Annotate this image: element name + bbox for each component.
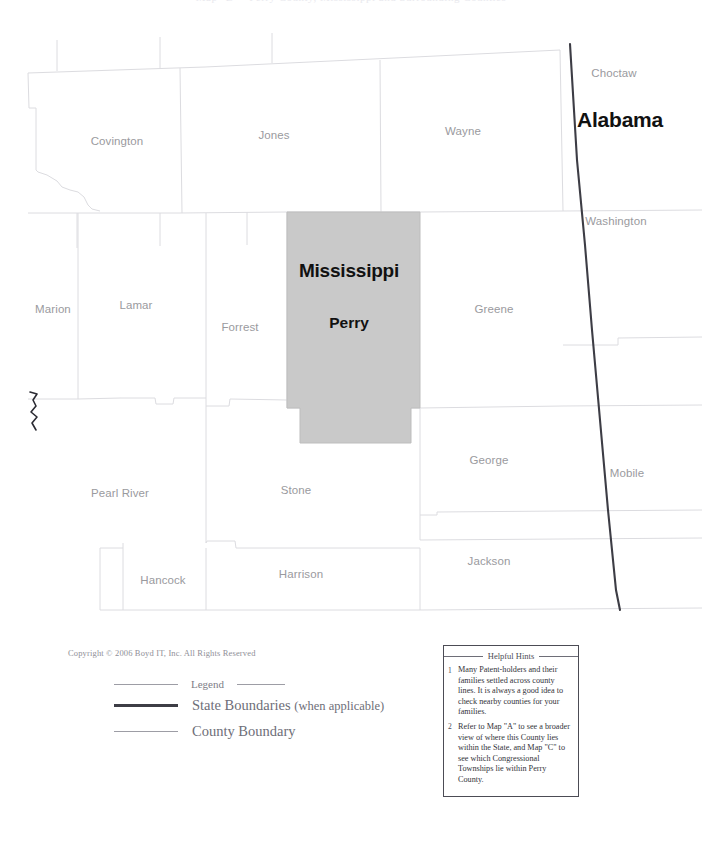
legend-label-state-suffix: (when applicable) [294,699,384,713]
county-label-harrison: Harrison [279,568,323,580]
legend-rule-left [114,684,178,685]
county-label-forrest: Forrest [221,321,258,333]
county-label-washington: Washington [585,215,646,227]
legend-header: Legend [114,676,410,692]
helpful-hints-box: Helpful Hints 1 Many Patent-holders and … [443,645,579,797]
hints-header: Helpful Hints [444,646,578,661]
hint-text-2: Refer to Map "A" to see a broader view o… [458,722,572,786]
county-label-jones: Jones [258,129,289,141]
county-label-covington: Covington [91,135,144,147]
state-boundary-swatch-icon [110,704,182,707]
hint-item-1: 1 Many Patent-holders and their families… [444,661,578,718]
copyright-notice: Copyright © 2006 Boyd IT, Inc. All Right… [68,648,256,658]
hint-number-2: 2 [448,722,458,786]
legend-label-state-main: State Boundaries [192,697,294,713]
legend-rule-right [237,684,285,685]
legend-label-state-boundaries: State Boundaries (when applicable) [182,697,384,714]
county-label-jackson: Jackson [468,555,511,567]
legend-title: Legend [178,678,237,690]
legend-row-county-boundary: County Boundary [110,718,410,744]
county-label-mobile: Mobile [610,467,644,479]
county-label-hancock: Hancock [140,574,185,586]
hint-number-1: 1 [448,665,458,718]
county-label-george: George [470,454,509,466]
legend-row-state-boundaries: State Boundaries (when applicable) [110,692,410,718]
map-vector-layer [0,0,702,625]
county-label-lamar: Lamar [119,299,152,311]
selected-state-label: Mississippi [299,260,399,282]
county-label-wayne: Wayne [445,125,481,137]
legend-label-county-boundary: County Boundary [182,723,296,740]
county-label-choctaw: Choctaw [591,67,636,79]
county-label-stone: Stone [281,484,312,496]
map-legend: Legend State Boundaries (when applicable… [110,676,410,744]
county-label-marion: Marion [35,303,71,315]
hint-text-1: Many Patent-holders and their families s… [458,665,572,718]
county-map: Covington Jones Wayne Choctaw Washington… [0,0,702,625]
selected-county-label: Perry [329,314,369,332]
county-label-pearl-river: Pearl River [91,487,149,499]
county-boundary-swatch-icon [110,731,182,732]
county-label-greene: Greene [475,303,514,315]
hints-rule-left [444,656,483,657]
state-label-alabama: Alabama [577,108,663,132]
hint-item-2: 2 Refer to Map "A" to see a broader view… [444,718,578,786]
hints-title: Helpful Hints [483,651,540,661]
hints-rule-right [539,656,578,657]
